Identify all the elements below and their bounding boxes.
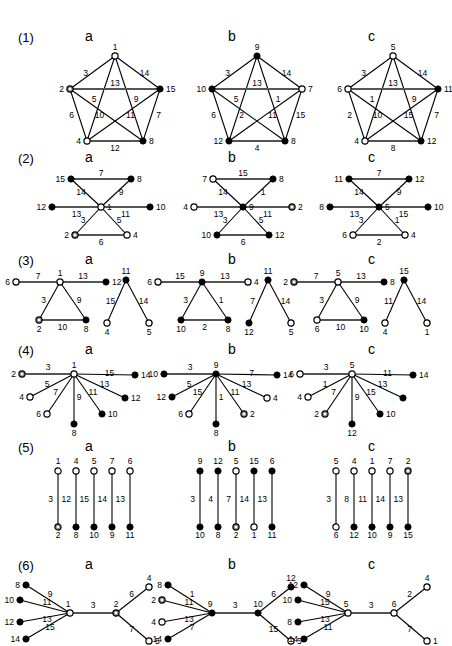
- vertex-label-4: 4: [74, 456, 79, 466]
- edge-label-13: 13: [394, 494, 404, 504]
- vertex-label-4: 4: [297, 392, 302, 402]
- vertex-label-6: 6: [5, 277, 10, 287]
- node-14: [132, 372, 138, 378]
- vertex-label-10: 10: [197, 84, 207, 94]
- vertex-label-9: 9: [208, 599, 213, 609]
- vertex-label-1: 1: [252, 530, 257, 540]
- vertex-label-14: 14: [419, 370, 429, 380]
- node-15: [401, 277, 407, 283]
- row-5-graphs: 3121248155101479136113910412875214151136…: [0, 455, 452, 565]
- vertex-label-11: 11: [126, 530, 135, 540]
- center-node-5: [349, 371, 355, 377]
- edge-label-6: 6: [211, 110, 216, 120]
- node-7: [299, 86, 305, 92]
- node-10: [214, 232, 220, 238]
- bowtie-graph-a: 714913113561158121024: [37, 168, 166, 247]
- node-14: [410, 372, 416, 378]
- edge-label-15: 15: [106, 296, 116, 306]
- vertex-label-12: 12: [157, 392, 167, 402]
- node-10: [377, 411, 383, 417]
- vertex-label-12: 12: [213, 456, 223, 466]
- vertex-label-8: 8: [84, 324, 89, 334]
- node-4: [27, 394, 33, 400]
- edge-label-3: 3: [225, 68, 230, 78]
- vertex-label-6: 6: [337, 84, 342, 94]
- edge-label-2: 2: [347, 110, 352, 120]
- node-4: [124, 232, 130, 238]
- edge-label-3: 3: [190, 494, 195, 504]
- node-10: [147, 204, 153, 210]
- vertex-label-6: 6: [147, 277, 152, 287]
- vertex-label-2: 2: [314, 409, 319, 419]
- node-1: [112, 53, 118, 59]
- edge-label-3: 3: [83, 68, 88, 78]
- graph-edge: [338, 282, 364, 320]
- vertex-label-4: 4: [352, 456, 357, 466]
- edge-label-4: 4: [208, 494, 213, 504]
- node-12: [301, 582, 307, 588]
- node-8: [23, 582, 29, 588]
- vertex-label-14: 14: [11, 634, 21, 644]
- vertex-label-2: 2: [406, 456, 411, 466]
- double-star-graph-c: 391513112756121081441: [283, 573, 438, 646]
- vertex-label-4: 4: [254, 277, 259, 287]
- vertex-label-2: 2: [250, 409, 255, 419]
- node-8: [165, 582, 171, 588]
- vertex-label-5: 5: [336, 268, 341, 278]
- node-inner-dot: [293, 281, 296, 284]
- graph-edge: [47, 374, 74, 414]
- edge-label-1: 1: [370, 94, 375, 104]
- edge-label-13: 13: [110, 78, 120, 88]
- vertex-label-2: 2: [11, 369, 16, 379]
- edge-label-15: 15: [105, 368, 115, 378]
- vertex-label-12: 12: [37, 202, 47, 212]
- panel-title-4b: b: [228, 341, 236, 357]
- vertex-label-12: 12: [415, 174, 425, 184]
- node-8: [295, 619, 301, 625]
- vertex-label-10: 10: [253, 599, 263, 609]
- node-15: [251, 468, 257, 474]
- vertex-label-11: 11: [264, 266, 273, 276]
- double-star-graph-b: 311113761591082414125: [151, 573, 302, 646]
- node-8: [128, 176, 134, 182]
- node-5: [91, 468, 97, 474]
- bowtie-graph-c: 714913153125111281064: [319, 168, 443, 247]
- vertex-label-10: 10: [156, 202, 166, 212]
- vertex-label-6: 6: [289, 369, 294, 379]
- hub-node-9: [209, 610, 215, 616]
- edge-label-14: 14: [281, 296, 291, 306]
- graph-edge: [115, 56, 160, 89]
- edge-label-14: 14: [282, 68, 292, 78]
- node-8: [327, 204, 333, 210]
- vertex-label-2: 2: [151, 595, 156, 605]
- graph-edge: [308, 374, 352, 397]
- edge-label-5: 5: [187, 379, 192, 389]
- edge-label-7: 7: [331, 387, 336, 397]
- edge-label-4: 4: [255, 143, 260, 153]
- edge-label-14: 14: [218, 187, 228, 197]
- edge-label-7: 7: [36, 271, 41, 281]
- vertex-label-8: 8: [15, 580, 20, 590]
- edge-label-11: 11: [121, 209, 130, 219]
- edge-label-11: 11: [383, 368, 392, 378]
- edge-label-7: 7: [129, 624, 134, 634]
- panel-title-2b: b: [228, 149, 236, 165]
- vertex-label-8: 8: [149, 136, 154, 146]
- edge-label-15: 15: [404, 110, 414, 120]
- node-1: [424, 320, 430, 326]
- center-node-1: [71, 371, 77, 377]
- edge-label-14: 14: [139, 296, 149, 306]
- vertex-label-11: 11: [444, 84, 452, 94]
- panel-title-3c: c: [368, 251, 375, 267]
- vertex-label-8: 8: [226, 324, 231, 334]
- edge-label-9: 9: [397, 187, 402, 197]
- panel-title-3b: b: [228, 251, 236, 267]
- vertex-label-5: 5: [334, 456, 339, 466]
- node-15: [157, 86, 163, 92]
- edge-label-10: 10: [373, 110, 383, 120]
- vertex-label-12: 12: [5, 617, 15, 627]
- node-1: [98, 204, 104, 210]
- vertex-label-6: 6: [315, 324, 320, 334]
- vertex-label-14: 14: [289, 634, 299, 644]
- vertex-label-10: 10: [367, 530, 377, 540]
